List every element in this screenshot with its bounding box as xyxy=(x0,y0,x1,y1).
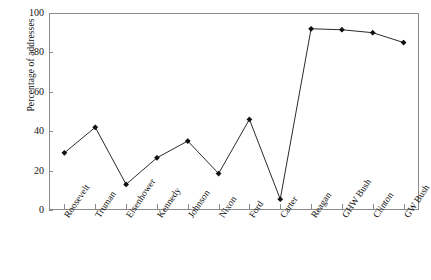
x-axis-tick-label: Truman xyxy=(93,189,118,219)
x-axis-tick-label: Carter xyxy=(278,194,300,219)
y-axis-tick-mark xyxy=(49,210,53,211)
y-axis-tick-mark xyxy=(49,92,53,93)
x-axis-tick-mark xyxy=(64,204,65,209)
x-axis-tick-label: Kennedy xyxy=(155,186,182,220)
y-axis-tick-mark xyxy=(49,52,53,53)
x-axis-tick-label: GHW Bush xyxy=(340,177,373,219)
x-axis-tick-mark xyxy=(342,204,343,209)
x-axis-tick-label: Ford xyxy=(247,199,265,219)
x-axis-tick-mark xyxy=(404,204,405,209)
x-axis-tick-mark xyxy=(249,204,250,209)
x-axis-tick-mark xyxy=(188,204,189,209)
y-axis-tick-mark xyxy=(49,131,53,132)
x-axis-tick-label: Roosevelt xyxy=(62,182,92,219)
x-axis-tick-label: Nixon xyxy=(217,194,239,219)
y-axis-tick-mark xyxy=(49,171,53,172)
x-axis-tick-label: Johnson xyxy=(186,188,212,219)
x-axis-tick-mark xyxy=(373,204,374,209)
x-axis-tick-label: Clinton xyxy=(371,190,395,219)
x-axis-tick-mark xyxy=(280,204,281,209)
x-axis-tick-mark xyxy=(95,204,96,209)
x-axis-tick-label: Reagan xyxy=(309,190,333,219)
x-axis-tick-mark xyxy=(126,204,127,209)
x-axis-tick-mark xyxy=(157,204,158,209)
x-axis-tick-mark xyxy=(311,204,312,209)
y-axis-tick-mark xyxy=(49,13,53,14)
x-axis-tick-label: GW Bush xyxy=(402,183,431,220)
x-axis-tick-mark xyxy=(219,204,220,209)
x-axis-tick-label: Eisenhower xyxy=(124,177,157,220)
